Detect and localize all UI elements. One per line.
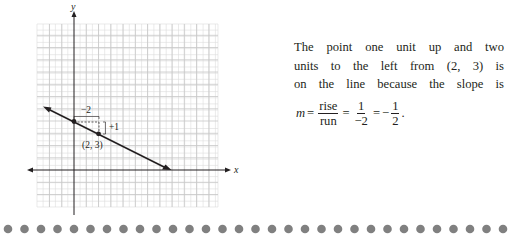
- equals-sign: =: [373, 106, 380, 121]
- slope-formula: m = rise run = 1 −2 = − 1 2 .: [296, 96, 405, 130]
- grid: [37, 24, 218, 207]
- x-axis-right-arrow-icon: [225, 168, 231, 173]
- explanation-line-2: units to the left from (2, 3) is: [294, 57, 504, 76]
- line-left-arrow-icon: [43, 107, 52, 113]
- fraction-denominator: 2: [391, 114, 399, 128]
- explanation-text: The point one unit up and two units to t…: [294, 38, 504, 94]
- y-axis: [72, 11, 77, 215]
- fraction-numerator: 1: [391, 99, 399, 114]
- fraction-denominator: −2: [354, 114, 369, 128]
- period: .: [401, 106, 404, 121]
- coordinate-graph: −2 +1 (2, 3) x y: [0, 0, 260, 215]
- x-axis-label: x: [233, 164, 239, 175]
- fraction-numerator: rise: [318, 99, 338, 114]
- fraction-denominator: run: [319, 114, 338, 128]
- dotted-divider: [0, 222, 523, 236]
- fraction-rise-over-run: rise run: [318, 99, 338, 128]
- explanation-line-1: The point one unit up and two: [294, 38, 504, 57]
- point-label: (2, 3): [82, 140, 103, 151]
- rise-bracket: [103, 122, 106, 134]
- explanation-line-3: on the line because the slope is: [294, 75, 504, 94]
- slope-variable: m: [296, 106, 305, 121]
- fraction-one-over-neg-two: 1 −2: [354, 99, 369, 128]
- point-2-3: [96, 131, 101, 136]
- fraction-one-half: 1 2: [391, 99, 399, 128]
- rise-label: +1: [109, 122, 119, 132]
- equals-sign: =: [307, 106, 314, 121]
- fraction-numerator: 1: [357, 99, 365, 114]
- point-y-intercept: [72, 119, 77, 124]
- y-axis-label: y: [70, 1, 76, 12]
- equals-sign: =: [342, 106, 349, 121]
- x-axis-left-arrow-icon: [27, 168, 33, 173]
- run-label: −2: [81, 105, 91, 115]
- negative-sign: −: [382, 106, 389, 121]
